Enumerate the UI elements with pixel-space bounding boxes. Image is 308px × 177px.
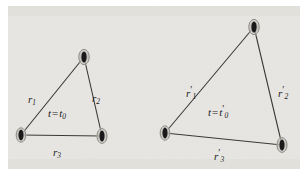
edge-label-r3-sub: 3 <box>57 151 61 160</box>
edge-label-r1-sub: 1 <box>32 98 36 107</box>
figure-container: r1 r2 r3 t=t0 r′1 r′2 r′3 t=t′0 <box>0 0 308 177</box>
edge-label-r2-prime-sub: 2 <box>284 92 288 101</box>
vertex-prime-top-marker <box>247 18 261 37</box>
edge-label-r3-prime: r′3 <box>214 148 224 164</box>
vertex-bottom-left-marker <box>15 126 28 144</box>
plate-shade-top <box>8 6 300 16</box>
edge-label-r1: r1 <box>28 94 36 106</box>
time-label-t0-subscript: 0 <box>62 112 66 121</box>
edge-label-r3: r3 <box>53 147 61 159</box>
plate-shade-bottom <box>8 159 300 169</box>
edge-label-r1-prime-sub: 1 <box>192 92 196 101</box>
edge-label-r2-sub: 2 <box>96 97 100 106</box>
edge-label-r1-prime: r′1 <box>186 85 196 101</box>
vertex-prime-bottom-right-marker <box>275 136 289 154</box>
vertex-bottom-right-marker <box>95 127 109 145</box>
vertex-top-marker <box>77 48 91 67</box>
time-label-t0-prime: t=t′0 <box>208 104 228 120</box>
time-label-t0: t=t0 <box>48 108 66 120</box>
edge-label-r2-prime: r′2 <box>278 85 288 101</box>
edge-label-r2: r2 <box>92 93 100 105</box>
vertex-prime-bottom-left-marker <box>159 124 172 142</box>
figure-svg-canvas <box>0 0 308 177</box>
edge-label-r3-prime-sub: 3 <box>220 155 224 164</box>
time-label-t0-prime-subscript: 0 <box>225 111 229 120</box>
